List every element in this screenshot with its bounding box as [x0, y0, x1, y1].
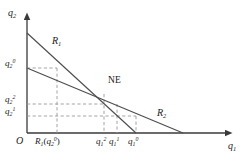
curve-label-R2: R2: [157, 108, 166, 118]
x-axis-label: q1: [228, 141, 236, 151]
origin-label: O: [16, 136, 23, 146]
nash-equilibrium-label: NE: [108, 76, 121, 86]
x-tick-label-q1-1: q11: [109, 137, 119, 146]
x-tick-label-R1-of-q2-0: R1(q20): [35, 137, 60, 146]
x-tick-label-q1-2: q12: [96, 137, 106, 146]
reaction-curves: [27, 33, 183, 133]
y-tick-label-q2-0: q20: [5, 59, 15, 68]
y-axis-label: q2: [8, 8, 16, 18]
reaction-curve-diagram: q2 q1 O R1 R2 NE q20 q22 q21 R1(q20) q12…: [0, 0, 245, 163]
y-tick-label-q2-2: q22: [5, 95, 15, 104]
y-tick-label-q2-1: q21: [5, 107, 15, 116]
curve-label-R1: R1: [52, 36, 61, 46]
x-tick-label-q1-0: q10: [128, 137, 138, 146]
curve-R2: [27, 68, 183, 133]
